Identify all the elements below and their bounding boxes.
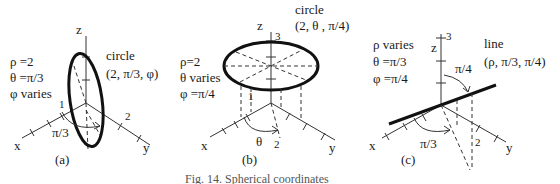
x-axis-label: x [369,138,376,153]
panel-label-b: (b) [242,152,257,167]
x-axis [382,105,441,138]
param-phi: φ varies [10,86,52,101]
figure-caption: Fig. 14. Spherical coordinates [185,172,329,184]
panel-label-c: (c) [401,152,415,167]
panel-label-a: (a) [55,152,69,167]
tick-label-2: 2 [125,110,131,122]
tick-label-3: 3 [275,30,281,42]
figure-canvas: z x y 1 2 π/3 ρ =2 θ =π/3 φ varies circl… [0,0,560,184]
param-theta: θ varies [180,70,221,85]
angle-label-theta: θ [256,134,262,149]
y-axis-label: y [143,140,150,155]
angle-label-theta: π/3 [420,136,437,151]
angle-label-theta: π/3 [52,125,69,140]
param-theta: θ =π/3 [10,70,43,85]
x-axis-label: x [14,138,21,153]
param-rho: ρ varies [373,37,414,52]
curve-title: line [484,36,504,51]
z-axis-label: z [431,40,437,55]
param-rho: ρ=2 [180,54,200,69]
param-phi: φ =π/4 [373,71,408,86]
z-axis-label: z [257,18,263,33]
curve-coords: (ρ, π/3, π/4) [484,54,546,69]
param-theta: θ =π/3 [373,54,406,69]
line-curve-c [389,85,496,124]
panel-a: z x y 1 2 π/3 ρ =2 θ =π/3 φ varies circl… [10,22,158,167]
angle-label-phi: π/4 [455,61,472,76]
tick-label-3: 3 [446,30,452,42]
z-axis-label: z [76,22,82,37]
tick-label-2: 2 [475,136,481,148]
y-axis [441,105,506,142]
curve-coords: (2, θ , π/4) [295,18,349,33]
y-axis [86,103,150,145]
y-axis-label: y [329,140,336,155]
curve-title: circle [295,2,324,17]
tick-label-1: 1 [248,90,254,102]
param-phi: φ =π/4 [180,86,215,101]
tick-label-1: 1 [59,98,65,110]
curve-title: circle [106,48,135,63]
angle-arc-theta [414,118,450,132]
tick-label-2: 2 [274,138,280,150]
curve-coords: (2, π/3, φ) [106,66,158,81]
panel-c: z 3 2 x y π/3 π/4 ρ varies θ =π/3 φ =π/4… [369,30,546,170]
y-axis-label: y [506,140,513,155]
panel-b: z 3 1 2 x y θ ρ=2 θ varies φ =π/4 circle… [180,2,349,167]
y-axis [271,103,335,140]
param-rho: ρ =2 [10,54,34,69]
x-axis-label: x [201,138,208,153]
